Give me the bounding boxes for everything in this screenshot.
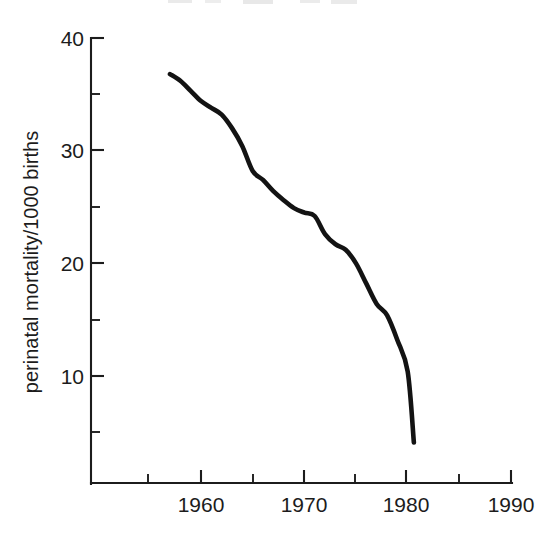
y-axis-title: perinatal mortality/1000 births	[20, 131, 42, 393]
y-tick-label-10: 10	[61, 365, 84, 388]
x-tick-label-1990: 1990	[488, 493, 535, 516]
chart-figure: 40 30 20 10 1960 1970 1980 1990 perinata…	[0, 0, 554, 536]
perinatal-mortality-line-chart: 40 30 20 10 1960 1970 1980 1990 perinata…	[0, 0, 554, 536]
mortality-trend-line	[170, 74, 414, 442]
y-tick-label-40: 40	[61, 27, 84, 50]
y-tick-label-30: 30	[61, 139, 84, 162]
y-tick-label-20: 20	[61, 252, 84, 275]
x-axis-major-ticks	[201, 470, 511, 483]
cropped-title-remnant	[168, 0, 357, 4]
x-tick-label-1980: 1980	[383, 493, 430, 516]
x-tick-label-1960: 1960	[178, 493, 225, 516]
x-tick-label-1970: 1970	[281, 493, 328, 516]
